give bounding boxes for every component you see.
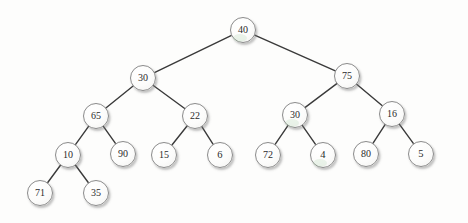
tree-node[interactable]: 90	[110, 141, 136, 167]
tree-node[interactable]: 75	[334, 63, 360, 89]
tree-node-label: 15	[159, 150, 169, 160]
tree-node-label: 6	[217, 149, 222, 160]
tree-node[interactable]: 35	[83, 180, 109, 206]
tree-node[interactable]: 30	[282, 102, 308, 128]
tree-node[interactable]: 22	[182, 103, 208, 129]
tree-node[interactable]: 16	[379, 101, 405, 127]
tree-node[interactable]: 30	[130, 65, 156, 91]
tree-node[interactable]: 6	[207, 142, 233, 168]
tree-node-label: 40	[238, 25, 248, 35]
tree-node[interactable]: 65	[83, 103, 109, 129]
tree-node-label: 30	[138, 73, 148, 83]
binary-tree-diagram: 4030756522301610901567248057135	[0, 0, 468, 223]
tree-node-label: 80	[361, 149, 371, 159]
tree-node-label: 22	[190, 111, 200, 121]
tree-node-label: 72	[263, 150, 273, 160]
tree-node-label: 5	[418, 148, 423, 159]
tree-node-layer: 4030756522301610901567248057135	[0, 0, 468, 223]
tree-node-label: 71	[35, 188, 45, 198]
tree-node[interactable]: 4	[310, 142, 336, 168]
tree-node-label: 10	[63, 150, 73, 160]
tree-node[interactable]: 72	[255, 142, 281, 168]
tree-node-label: 65	[91, 111, 101, 121]
tree-node[interactable]: 15	[151, 142, 177, 168]
tree-node-label: 75	[342, 71, 352, 81]
tree-node-label: 35	[91, 188, 101, 198]
tree-node-label: 90	[118, 149, 128, 159]
tree-node[interactable]: 10	[55, 142, 81, 168]
tree-node[interactable]: 71	[27, 180, 53, 206]
tree-node[interactable]: 80	[353, 141, 379, 167]
tree-node-label: 4	[320, 149, 325, 160]
tree-node[interactable]: 5	[408, 141, 434, 167]
tree-node-label: 30	[290, 110, 300, 120]
tree-node[interactable]: 40	[230, 17, 256, 43]
tree-node-label: 16	[387, 109, 397, 119]
